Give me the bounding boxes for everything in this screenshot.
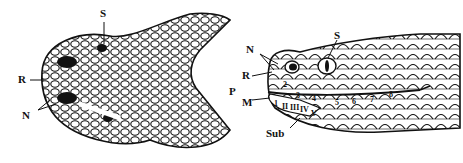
supralabial-6: 6	[352, 98, 356, 106]
supralabial-7: 7	[370, 96, 374, 104]
infralabial-v: V	[311, 110, 317, 118]
label-p-lateral: P	[229, 86, 236, 97]
label-m-lateral: M	[242, 97, 252, 108]
supralabial-5: 5	[335, 99, 339, 107]
dorsal-head	[30, 13, 230, 147]
label-sub-lateral: Sub	[266, 128, 284, 139]
label-r-lateral: R	[242, 70, 250, 81]
supralabial-8: 8	[389, 91, 393, 99]
label-r-dorsal: R	[18, 74, 26, 85]
label-s-lateral: S	[334, 30, 340, 41]
supralabial-4: 4	[312, 95, 316, 103]
infralabial-1: 1	[274, 100, 278, 108]
infralabial-ii: II	[282, 103, 288, 111]
label-n-lateral: N	[246, 44, 254, 55]
infralabial-iv: IV	[300, 106, 309, 114]
diagram-drawing	[0, 0, 463, 163]
infralabial-iii: III	[290, 104, 299, 112]
label-s-dorsal: S	[100, 8, 106, 19]
supralabial-2: 2	[283, 81, 287, 89]
snake-head-diagram: S R N S N R P M Sub 2 3 4 5 6 7 8 1 II I…	[0, 0, 463, 163]
label-n-dorsal: N	[22, 110, 30, 121]
supralabial-3: 3	[296, 92, 300, 100]
